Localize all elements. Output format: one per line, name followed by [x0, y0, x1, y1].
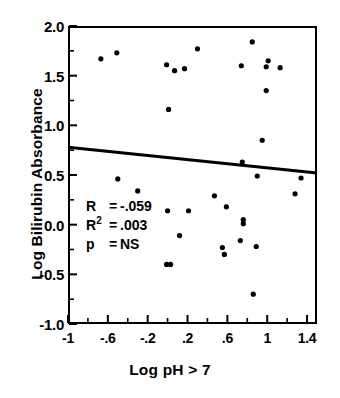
stat-row-r-squared: R2=.003 [86, 216, 152, 235]
stat-r-equals: = [106, 197, 120, 216]
stat-r-symbol: R [86, 197, 106, 216]
stat-r2-symbol: R2 [86, 216, 106, 235]
x-tick-label: 1.4 [298, 331, 317, 345]
stat-r-value: -.059 [120, 197, 152, 216]
scatter-plot-figure: -1.0-0.50.00.51.01.52.0 -1-.6-.2.2.611.4… [0, 0, 340, 398]
x-tick-label: .6 [222, 331, 233, 345]
plot-area-frame [68, 26, 317, 324]
stat-r2-value: .003 [120, 216, 147, 235]
x-tick-label: -.2 [140, 331, 155, 345]
stat-row-p: p=NS [86, 235, 152, 254]
x-axis-title: Log pH > 7 [0, 361, 340, 379]
x-tick-label: -1 [62, 331, 74, 345]
stat-r2-superscript: 2 [96, 215, 102, 226]
stat-p-equals: = [106, 235, 120, 254]
stat-r2-base: R [86, 217, 96, 233]
stat-row-r: R=-.059 [86, 197, 152, 216]
y-tick-label: -1.0 [2, 317, 64, 332]
x-tick-label: 1 [263, 331, 271, 345]
y-axis-title: Log Bilirubin Absorbance [28, 54, 46, 314]
y-tick-label: 2.0 [2, 19, 64, 34]
stat-p-symbol: p [86, 235, 106, 254]
x-axis-tick-labels: -1-.6-.2.2.611.4 [0, 331, 340, 351]
stat-p-value: NS [120, 235, 139, 254]
x-tick-label: -.6 [100, 331, 115, 345]
statistics-annotation: R=-.059 R2=.003 p=NS [86, 197, 152, 254]
stat-r2-equals: = [106, 216, 120, 235]
x-tick-label: .2 [182, 331, 193, 345]
